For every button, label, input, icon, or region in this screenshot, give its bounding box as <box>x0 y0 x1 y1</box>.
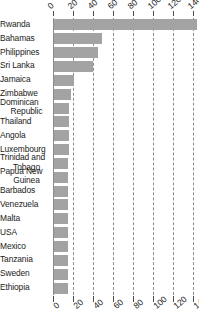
bottom-axis: 020406080100120140 <box>53 295 199 324</box>
axis-tick-80 <box>133 11 134 16</box>
bar <box>54 144 69 155</box>
bar <box>54 283 68 294</box>
bar <box>54 33 102 44</box>
axis-tick-label-60: 60 <box>112 298 125 311</box>
bar <box>54 172 68 183</box>
bar <box>54 255 68 266</box>
category-label: Thailand <box>0 117 51 126</box>
axis-tick-label-20: 20 <box>66 0 79 11</box>
gridline-120 <box>173 18 174 295</box>
gridline-140 <box>193 18 194 295</box>
axis-tick-label-60: 60 <box>106 0 119 11</box>
axis-tick-label-40: 40 <box>92 298 105 311</box>
bar <box>54 227 68 238</box>
axis-tick-20 <box>73 11 74 16</box>
category-label: Tanzania <box>0 255 51 264</box>
bar <box>54 130 69 141</box>
category-label: Ethiopia <box>0 283 51 292</box>
bar <box>54 89 71 100</box>
horizontal-bar-chart: RwandaBahamasPhilippinesSri LankaJamaica… <box>0 0 199 324</box>
axis-tick-120 <box>173 11 174 16</box>
category-label: Rwanda <box>0 20 51 29</box>
axis-tick-label-80: 80 <box>126 0 139 11</box>
category-label: Jamaica <box>0 75 51 84</box>
axis-tick-label-100: 100 <box>152 295 169 311</box>
category-label: Mexico <box>0 242 51 251</box>
category-label: Venezuela <box>0 200 51 209</box>
axis-tick-60 <box>113 11 114 16</box>
axis-tick-label-80: 80 <box>132 298 145 311</box>
axis-tick-140 <box>193 11 194 16</box>
bar <box>54 103 69 114</box>
axis-tick-label-0: 0 <box>52 301 61 311</box>
bar <box>54 158 68 169</box>
gridline-60 <box>113 18 114 295</box>
bar <box>54 61 93 72</box>
bar <box>54 19 197 30</box>
axis-tick-label-120: 120 <box>166 0 183 11</box>
bar <box>54 47 98 58</box>
category-label: Bahamas <box>0 34 51 43</box>
gridline-100 <box>153 18 154 295</box>
axis-tick-label-40: 40 <box>86 0 99 11</box>
gridline-0 <box>53 18 54 295</box>
plot-area <box>53 18 199 295</box>
bar <box>54 186 68 197</box>
category-label: Sweden <box>0 269 51 278</box>
category-label: Malta <box>0 214 51 223</box>
axis-tick-0 <box>53 11 54 16</box>
bar <box>54 213 68 224</box>
axis-tick-label-120: 120 <box>172 295 189 311</box>
axis-tick-40 <box>93 11 94 16</box>
axis-tick-label-140: 140 <box>186 0 199 11</box>
bar <box>54 199 68 210</box>
category-label: Sri Lanka <box>0 61 51 70</box>
category-label: Angola <box>0 131 51 140</box>
gridline-80 <box>133 18 134 295</box>
gridline-40 <box>93 18 94 295</box>
category-label: Philippines <box>0 48 51 57</box>
bar <box>54 75 74 86</box>
axis-tick-label-20: 20 <box>72 298 85 311</box>
gridline-20 <box>73 18 74 295</box>
category-label: Barbados <box>0 186 51 195</box>
category-label-line1: Trinidad and <box>0 152 45 162</box>
bar <box>54 116 69 127</box>
bar <box>54 241 68 252</box>
top-axis: 020406080100120140 <box>53 0 199 18</box>
axis-tick-label-100: 100 <box>146 0 163 11</box>
category-label-column: RwandaBahamasPhilippinesSri LankaJamaica… <box>0 0 53 324</box>
category-label: Papua NewGuinea <box>0 167 51 185</box>
category-label: DominicanRepublic <box>0 98 51 116</box>
bar <box>54 269 68 280</box>
axis-tick-100 <box>153 11 154 16</box>
category-label: USA <box>0 228 51 237</box>
